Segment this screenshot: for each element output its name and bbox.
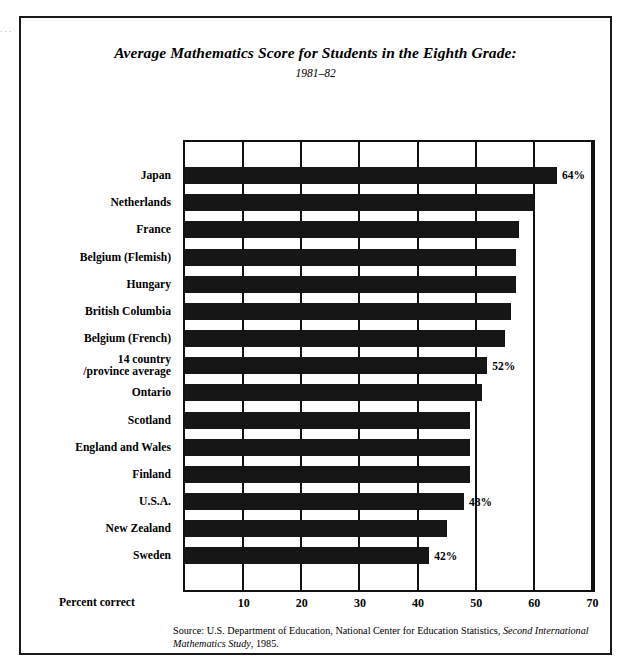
category-label: 14 country/province average <box>83 354 171 378</box>
category-label-line1: Finland <box>132 468 171 481</box>
x-tick-label-50: 50 <box>470 596 482 611</box>
category-label: Belgium (Flemish) <box>80 252 171 264</box>
margin-text-sliver: · · · · · <box>0 24 14 110</box>
bar <box>185 357 487 374</box>
bar-row <box>185 221 592 238</box>
bar-value-label: 64% <box>557 169 585 181</box>
chart-title: Average Mathematics Score for Students i… <box>21 44 610 62</box>
bar <box>185 412 470 429</box>
category-label-line1: Japan <box>141 169 171 182</box>
category-label: Netherlands <box>110 197 171 209</box>
category-label: France <box>136 224 171 236</box>
category-label-line1: Hungary <box>127 278 171 291</box>
x-tick-label-70: 70 <box>587 596 599 611</box>
bar-row <box>185 303 592 320</box>
bar-row <box>185 194 592 211</box>
bar <box>185 384 482 401</box>
bar-row <box>185 466 592 483</box>
bar-value-label: 52% <box>487 359 515 371</box>
figure-frame: Average Mathematics Score for Students i… <box>19 16 612 655</box>
plot-area: 64%52%48%42% <box>183 140 595 592</box>
x-tick-label-10: 10 <box>238 596 250 611</box>
category-label-line1: Belgium (French) <box>84 332 171 345</box>
category-label-line1: Scotland <box>128 414 171 427</box>
bars-layer: 64%52%48%42% <box>185 142 593 590</box>
category-label-line1: New Zealand <box>106 522 171 535</box>
x-axis-tick-labels: 10203040506070 <box>183 596 595 614</box>
category-label: British Columbia <box>85 306 171 318</box>
bar <box>185 330 505 347</box>
bar <box>185 439 470 456</box>
bar-row: 52% <box>185 357 592 374</box>
chart-subtitle: 1981–82 <box>21 67 610 79</box>
bar-row <box>185 384 592 401</box>
bar <box>185 493 464 510</box>
category-label-line1: England and Wales <box>75 441 171 454</box>
category-label: Ontario <box>132 387 171 399</box>
x-tick-label-20: 20 <box>296 596 308 611</box>
source-note: Source: U.S. Department of Education, Na… <box>173 625 597 650</box>
category-axis-labels: JapanNetherlandsFranceBelgium (Flemish)H… <box>21 140 178 592</box>
bar <box>185 520 447 537</box>
bar-row: 48% <box>185 493 592 510</box>
bar <box>185 221 519 238</box>
category-label-line2: /province average <box>83 366 171 378</box>
category-label-line1: U.S.A. <box>139 495 171 508</box>
bar <box>185 249 516 266</box>
x-tick-label-30: 30 <box>354 596 366 611</box>
category-label-line1: Ontario <box>132 386 171 399</box>
bar-row: 42% <box>185 547 592 564</box>
bar-row <box>185 276 592 293</box>
category-label: Hungary <box>127 279 171 291</box>
bar-row <box>185 439 592 456</box>
bar <box>185 276 516 293</box>
bar <box>185 167 557 184</box>
category-label-line1: Belgium (Flemish) <box>80 251 171 264</box>
x-tick-label-40: 40 <box>412 596 424 611</box>
source-suffix: , 1985. <box>251 638 279 649</box>
x-tick-label-60: 60 <box>528 596 540 611</box>
category-label: Belgium (French) <box>84 333 171 345</box>
category-label: Finland <box>132 469 171 481</box>
bar <box>185 466 470 483</box>
bar <box>185 547 429 564</box>
bar <box>185 303 511 320</box>
category-label: Japan <box>141 170 171 182</box>
bar-row <box>185 249 592 266</box>
bar-value-label: 42% <box>429 550 457 562</box>
category-label: U.S.A. <box>139 496 171 508</box>
bar-row <box>185 330 592 347</box>
x-axis-title: Percent correct <box>59 596 135 609</box>
bar-row <box>185 412 592 429</box>
source-prefix: Source: U.S. Department of Education, Na… <box>173 625 503 636</box>
category-label-line1: France <box>136 223 171 236</box>
category-label: Sweden <box>133 550 171 562</box>
bar-row <box>185 520 592 537</box>
bar-row: 64% <box>185 167 592 184</box>
category-label-line1: Netherlands <box>110 196 171 209</box>
bar-value-label: 48% <box>464 495 492 507</box>
category-label: Scotland <box>128 415 171 427</box>
category-label: England and Wales <box>75 442 171 454</box>
category-label: New Zealand <box>106 523 171 535</box>
category-label-line1: British Columbia <box>85 305 171 318</box>
category-label-line1: Sweden <box>133 549 171 562</box>
bar <box>185 194 534 211</box>
